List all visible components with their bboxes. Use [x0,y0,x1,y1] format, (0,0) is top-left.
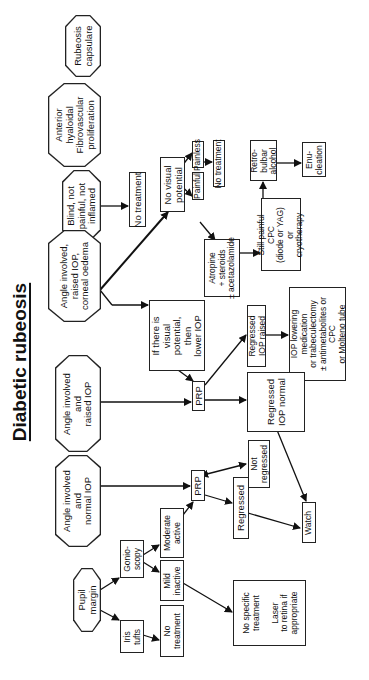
box-mild-inactive: Mild inactive [160,560,184,601]
node-raised-iop: Angle involved and raised IOP [55,355,101,452]
box-painless: Painless [192,141,204,168]
box-label: Regressed [236,485,247,531]
box-label: Painless [193,138,203,170]
box-label: Gonio- scopy [123,546,142,572]
box-label: No treatment [163,613,182,649]
box-retrobulbar: Retro- bulbar alcohol [250,140,277,181]
box-label: Moderate active [163,515,182,551]
box-no-treatment-iris: No treatment [160,605,184,657]
box-no-treatment-blind: No treatment [129,172,146,227]
node-label: Rubeosis capsulare [73,25,94,66]
box-regressed-iop-normal: Regressed IOP normal [247,372,305,432]
node-label: Angle involved, raised IOP, corneal oede… [59,242,91,310]
box-label: If there is visual potential, then lower… [151,315,204,357]
node-label: Angle involved and normal IOP [62,470,94,532]
box-prp-lower: PRP [191,470,205,501]
node-label: Angle involved and raised IOP [62,373,94,435]
node-normal-iop: Angle involved and normal IOP [55,455,101,547]
box-label: No specific treatment Laser to retina if… [241,591,298,634]
box-moderate-active: Moderate active [160,508,184,558]
box-iop-lowering: IOP lowering medication or trabeculectom… [289,287,346,381]
box-no-specific-treatment: No specific treatment Laser to retina if… [233,580,306,646]
box-painful: Painful [192,172,204,200]
box-still-painful: Still painful CPC (diode or YAG) or cryo… [261,198,301,271]
node-rubeosis-capsulare: Rubeosis capsulare [65,15,101,77]
box-label: No treatment [132,172,143,227]
node-pupil-margin: Pupil margin [73,568,101,632]
node-label: Pupil margin [77,585,98,614]
box-prp-upper: PRP [192,381,205,411]
box-label: PRP [193,476,204,496]
box-label: Regressed IOP normal [266,378,287,426]
node-corneal-oedema: Angle involved, raised IOP, corneal oede… [48,230,101,322]
box-visual-potential: If there is visual potential, then lower… [149,300,205,371]
box-label: No visual potential [162,165,183,204]
box-atropine: Atropine + steroids ± acetazolamide [204,239,240,297]
box-label: Retro- bulbar alcohol [249,147,278,174]
box-gonioscopy: Gonio- scopy [120,540,144,578]
box-label: Watch [304,511,314,535]
box-label: Still painful CPC (diode or YAG) or cryo… [257,207,305,263]
box-regressed-iop-raised: Regressed IOP raised [247,305,266,367]
box-no-treatment-painless: No treatment [213,140,225,187]
box-label: No treatment [214,139,224,188]
box-label: Atropine + steroids ± acetazolamide [208,237,237,299]
box-label: IOP lowering medication or trabeculectom… [289,297,346,371]
node-anterior-hyaloidal: Anterior hyaloidal Fibrovascular prolife… [48,83,101,167]
box-label: Mild inactive [163,566,182,595]
box-label: Iris tufts [123,628,142,644]
box-iris-tufts: Iris tufts [120,620,144,653]
box-no-visual-potential: No visual potential [160,157,185,212]
node-label: Blind, not painful, not inflamed [66,183,98,229]
box-label: Painful [193,173,203,199]
node-label: Anterior hyaloidal Fibrovascular prolife… [54,96,96,153]
box-not-regressed: Not regressed [248,440,270,488]
box-label: Regressed IOP raised [247,315,266,356]
box-watch: Watch [302,502,316,543]
box-label: Enu- cleation [305,145,324,174]
box-enucleation: Enu- cleation [302,142,326,177]
box-regressed: Regressed [233,477,249,539]
box-label: PRP [193,386,204,406]
box-label: Not regressed [250,445,269,483]
